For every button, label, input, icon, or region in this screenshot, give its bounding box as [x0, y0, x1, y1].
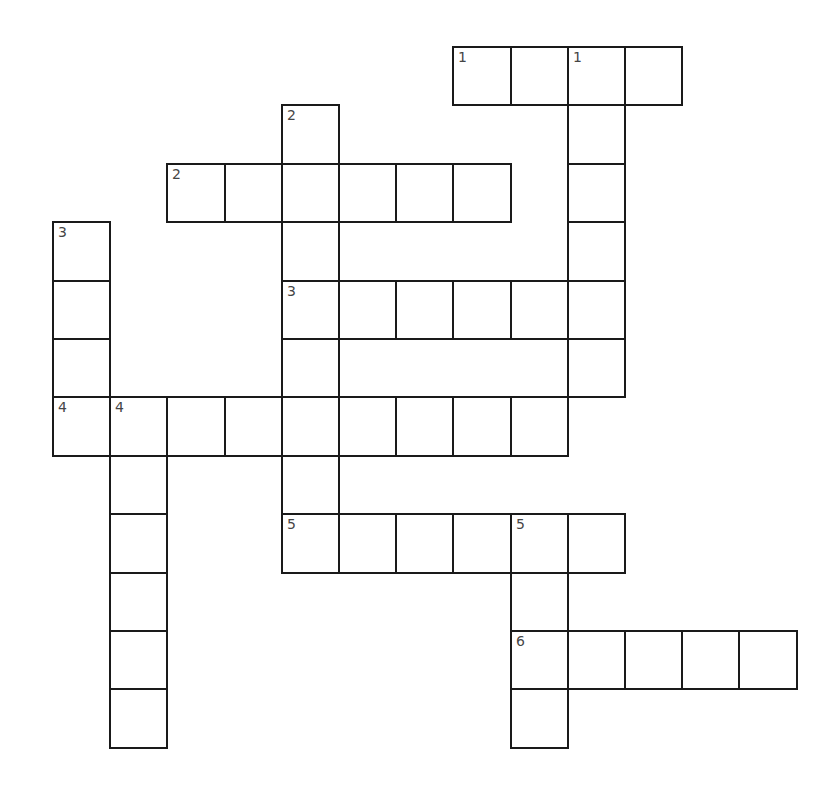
crossword-cell[interactable]	[452, 396, 512, 457]
crossword-cell[interactable]	[281, 396, 340, 457]
letter-input[interactable]	[283, 282, 338, 338]
letter-input[interactable]	[283, 223, 338, 280]
crossword-cell[interactable]	[624, 630, 683, 690]
letter-input[interactable]	[283, 398, 338, 455]
letter-input[interactable]	[111, 632, 166, 688]
crossword-cell[interactable]	[567, 280, 626, 340]
letter-input[interactable]	[226, 165, 281, 221]
crossword-cell[interactable]: 6	[510, 630, 569, 690]
crossword-cell[interactable]	[109, 513, 168, 574]
letter-input[interactable]	[569, 223, 624, 280]
crossword-cell[interactable]	[338, 163, 397, 223]
letter-input[interactable]	[283, 515, 338, 572]
crossword-cell[interactable]	[395, 280, 454, 340]
letter-input[interactable]	[569, 165, 624, 221]
letter-input[interactable]	[283, 165, 338, 221]
crossword-cell[interactable]	[738, 630, 798, 690]
letter-input[interactable]	[111, 457, 166, 513]
crossword-cell[interactable]	[281, 163, 340, 223]
crossword-cell[interactable]	[52, 338, 111, 398]
crossword-cell[interactable]	[624, 46, 683, 106]
letter-input[interactable]	[740, 632, 796, 688]
crossword-cell[interactable]	[338, 513, 397, 574]
letter-input[interactable]	[54, 282, 109, 338]
crossword-cell[interactable]: 4	[109, 396, 168, 457]
crossword-cell[interactable]	[281, 221, 340, 282]
letter-input[interactable]	[512, 574, 567, 630]
letter-input[interactable]	[512, 48, 567, 104]
crossword-cell[interactable]	[567, 513, 626, 574]
crossword-cell[interactable]	[510, 572, 569, 632]
letter-input[interactable]	[283, 106, 338, 163]
letter-input[interactable]	[454, 165, 510, 221]
letter-input[interactable]	[340, 282, 395, 338]
letter-input[interactable]	[283, 340, 338, 396]
letter-input[interactable]	[454, 282, 510, 338]
letter-input[interactable]	[111, 690, 166, 747]
crossword-cell[interactable]	[510, 396, 569, 457]
crossword-cell[interactable]: 1	[452, 46, 512, 106]
letter-input[interactable]	[512, 515, 567, 572]
letter-input[interactable]	[626, 48, 681, 104]
crossword-cell[interactable]	[109, 572, 168, 632]
crossword-cell[interactable]	[166, 396, 226, 457]
crossword-cell[interactable]: 5	[510, 513, 569, 574]
letter-input[interactable]	[454, 398, 510, 455]
letter-input[interactable]	[111, 398, 166, 455]
crossword-cell[interactable]	[224, 396, 283, 457]
crossword-cell[interactable]	[452, 163, 512, 223]
letter-input[interactable]	[569, 282, 624, 338]
crossword-cell[interactable]: 1	[567, 46, 626, 106]
letter-input[interactable]	[512, 690, 567, 747]
crossword-cell[interactable]: 2	[281, 104, 340, 165]
crossword-cell[interactable]	[567, 163, 626, 223]
crossword-cell[interactable]	[567, 221, 626, 282]
crossword-cell[interactable]: 3	[281, 280, 340, 340]
letter-input[interactable]	[54, 340, 109, 396]
letter-input[interactable]	[111, 574, 166, 630]
letter-input[interactable]	[168, 165, 224, 221]
crossword-cell[interactable]: 3	[52, 221, 111, 282]
crossword-cell[interactable]	[224, 163, 283, 223]
letter-input[interactable]	[454, 48, 510, 104]
crossword-cell[interactable]	[452, 280, 512, 340]
crossword-cell[interactable]	[567, 104, 626, 165]
letter-input[interactable]	[397, 515, 452, 572]
letter-input[interactable]	[283, 457, 338, 513]
letter-input[interactable]	[168, 398, 224, 455]
crossword-cell[interactable]: 4	[52, 396, 111, 457]
crossword-cell[interactable]	[338, 280, 397, 340]
crossword-cell[interactable]	[281, 338, 340, 398]
crossword-cell[interactable]	[510, 280, 569, 340]
crossword-cell[interactable]	[52, 280, 111, 340]
letter-input[interactable]	[397, 398, 452, 455]
crossword-cell[interactable]	[395, 396, 454, 457]
letter-input[interactable]	[569, 515, 624, 572]
crossword-cell[interactable]	[395, 513, 454, 574]
crossword-cell[interactable]: 5	[281, 513, 340, 574]
letter-input[interactable]	[569, 48, 624, 104]
crossword-cell[interactable]	[281, 455, 340, 515]
letter-input[interactable]	[512, 398, 567, 455]
letter-input[interactable]	[512, 632, 567, 688]
crossword-cell[interactable]	[109, 630, 168, 690]
letter-input[interactable]	[54, 398, 109, 455]
crossword-cell[interactable]	[452, 513, 512, 574]
crossword-cell[interactable]	[510, 46, 569, 106]
crossword-cell[interactable]	[395, 163, 454, 223]
crossword-cell[interactable]: 2	[166, 163, 226, 223]
crossword-cell[interactable]	[338, 396, 397, 457]
letter-input[interactable]	[340, 515, 395, 572]
letter-input[interactable]	[226, 398, 281, 455]
letter-input[interactable]	[454, 515, 510, 572]
crossword-cell[interactable]	[567, 338, 626, 398]
letter-input[interactable]	[683, 632, 738, 688]
crossword-cell[interactable]	[567, 630, 626, 690]
crossword-cell[interactable]	[109, 455, 168, 515]
letter-input[interactable]	[54, 223, 109, 280]
crossword-cell[interactable]	[681, 630, 740, 690]
letter-input[interactable]	[569, 340, 624, 396]
letter-input[interactable]	[626, 632, 681, 688]
crossword-cell[interactable]	[109, 688, 168, 749]
letter-input[interactable]	[397, 165, 452, 221]
